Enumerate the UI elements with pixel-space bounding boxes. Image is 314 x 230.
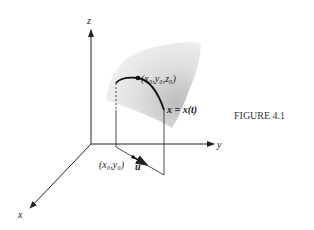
y-axis-label: y	[216, 139, 222, 150]
point-3d-label: (x₀,y₀,z₀)	[141, 73, 177, 85]
x-axis	[30, 144, 91, 208]
vector-u-label: u	[135, 161, 141, 172]
curve-label: x = x(t)	[166, 104, 197, 116]
z-axis-label: z	[86, 15, 91, 26]
figure-caption: FIGURE 4.1	[234, 110, 285, 121]
x-axis-label: x	[17, 209, 23, 220]
point-3d-marker	[136, 76, 141, 81]
point-2d-label: (x₀,y₀)	[99, 159, 125, 171]
figure-canvas: z y x (x₀,y₀,z₀) x = x(t) (x₀,y₀) u FIGU…	[0, 0, 314, 230]
surface-patch	[106, 42, 201, 128]
